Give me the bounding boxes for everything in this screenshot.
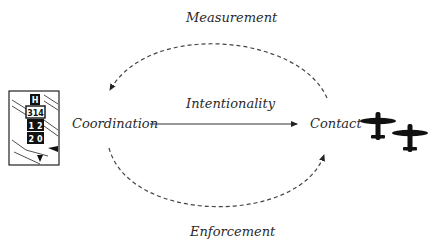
airport-signpost-icon: H 314 1 2 2 0 xyxy=(9,91,59,165)
coordination-label: Coordination xyxy=(72,116,158,131)
diagram-canvas: H 314 1 2 2 0 xyxy=(0,0,439,246)
svg-text:2 0: 2 0 xyxy=(29,135,43,144)
measurement-arc xyxy=(110,44,327,98)
svg-text:H: H xyxy=(32,96,39,105)
svg-text:314: 314 xyxy=(27,109,44,118)
svg-text:1 2: 1 2 xyxy=(29,122,43,131)
intentionality-label: Intentionality xyxy=(186,96,275,111)
enforcement-label: Enforcement xyxy=(190,224,275,239)
measurement-label: Measurement xyxy=(186,10,277,25)
fighter-planes-icon xyxy=(360,112,428,152)
enforcement-arc xyxy=(109,148,324,207)
contact-label: Contact xyxy=(310,116,362,131)
